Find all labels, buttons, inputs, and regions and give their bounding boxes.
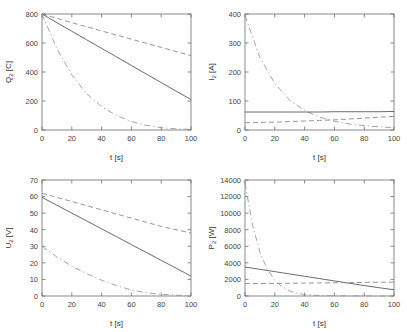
subplot-charge: 0204060801000200400600800t [s]Q2 [C]	[0, 0, 203, 166]
y-axis-label: P2 [W]	[207, 227, 217, 250]
y-tick-label: 0	[237, 126, 241, 135]
x-tick-label: 20	[271, 134, 279, 143]
series-slow-discharge	[42, 14, 191, 56]
x-tick-label: 0	[40, 300, 44, 309]
y-tick-label: 10000	[220, 209, 241, 218]
x-tick-label: 60	[127, 300, 135, 309]
y-tick-label: 100	[228, 97, 241, 106]
subplot-voltage: 020406080100010203040506070t [s]U2 [V]	[0, 166, 203, 332]
series-fast-discharge	[42, 14, 191, 129]
x-tick-label: 100	[388, 134, 401, 143]
x-tick-label: 0	[243, 134, 247, 143]
plot-frame	[42, 180, 191, 296]
y-tick-label: 200	[228, 68, 241, 77]
y-tick-label: 400	[25, 68, 38, 77]
x-tick-label: 20	[68, 134, 76, 143]
x-tick-label: 100	[388, 300, 401, 309]
y-tick-label: 14000	[220, 176, 241, 185]
y-axis-label: U2 [V]	[4, 227, 14, 248]
y-axis-label: I2 [A]	[207, 63, 217, 81]
y-tick-label: 0	[34, 292, 38, 301]
subplot-current: 0204060801000100200300400t [s]I2 [A]	[203, 0, 407, 166]
x-tick-label: 40	[300, 134, 308, 143]
x-axis-label: t [s]	[313, 319, 326, 328]
x-tick-label: 40	[97, 300, 105, 309]
x-tick-label: 100	[185, 134, 198, 143]
series-fast-drop	[42, 246, 191, 295]
y-tick-label: 50	[30, 209, 38, 218]
x-tick-label: 80	[360, 134, 368, 143]
x-tick-label: 100	[185, 300, 198, 309]
series-linear-discharge	[42, 14, 191, 100]
x-tick-label: 0	[243, 300, 247, 309]
series-slow-drop	[42, 193, 191, 233]
y-tick-label: 0	[34, 126, 38, 135]
y-tick-label: 400	[228, 10, 241, 19]
series-constant-current	[245, 111, 394, 112]
series-slow-rise	[245, 116, 394, 122]
svg-text:I2 [A]: I2 [A]	[207, 63, 217, 81]
y-tick-label: 30	[30, 242, 38, 251]
y-tick-label: 12000	[220, 192, 241, 201]
y-tick-label: 800	[25, 10, 38, 19]
y-tick-label: 0	[237, 292, 241, 301]
svg-text:Q2 [C]: Q2 [C]	[4, 61, 14, 83]
y-tick-label: 40	[30, 226, 38, 235]
x-axis-label: t [s]	[110, 319, 123, 328]
series-linear-drop	[42, 197, 191, 276]
x-tick-label: 80	[157, 134, 165, 143]
y-tick-label: 10	[30, 275, 38, 284]
y-tick-label: 70	[30, 176, 38, 185]
x-tick-label: 20	[68, 300, 76, 309]
x-axis-label: t [s]	[110, 153, 123, 162]
x-tick-label: 40	[300, 300, 308, 309]
y-tick-label: 4000	[224, 259, 241, 268]
svg-text:U2 [V]: U2 [V]	[4, 227, 14, 248]
x-tick-label: 60	[330, 300, 338, 309]
series-constant-power	[245, 282, 394, 283]
y-tick-label: 8000	[224, 226, 241, 235]
y-tick-label: 20	[30, 259, 38, 268]
y-axis-label: Q2 [C]	[4, 61, 14, 83]
y-tick-label: 300	[228, 39, 241, 48]
y-tick-label: 200	[25, 97, 38, 106]
series-exponential-decay	[245, 15, 394, 127]
y-tick-label: 2000	[224, 275, 241, 284]
subplot-power: 0204060801000200040006000800010000120001…	[203, 166, 407, 332]
x-tick-label: 80	[360, 300, 368, 309]
series-power-spike-decay	[245, 183, 394, 296]
svg-text:P2 [W]: P2 [W]	[207, 227, 217, 250]
figure-canvas: 0204060801000200400600800t [s]Q2 [C] 020…	[0, 0, 407, 332]
x-tick-label: 80	[157, 300, 165, 309]
plot-frame	[245, 14, 394, 130]
x-tick-label: 20	[271, 300, 279, 309]
x-tick-label: 60	[330, 134, 338, 143]
x-tick-label: 0	[40, 134, 44, 143]
x-tick-label: 40	[97, 134, 105, 143]
x-axis-label: t [s]	[313, 153, 326, 162]
y-tick-label: 60	[30, 192, 38, 201]
y-tick-label: 6000	[224, 242, 241, 251]
y-tick-label: 600	[25, 39, 38, 48]
plot-frame	[42, 14, 191, 130]
series-linear-power	[245, 267, 394, 290]
x-tick-label: 60	[127, 134, 135, 143]
